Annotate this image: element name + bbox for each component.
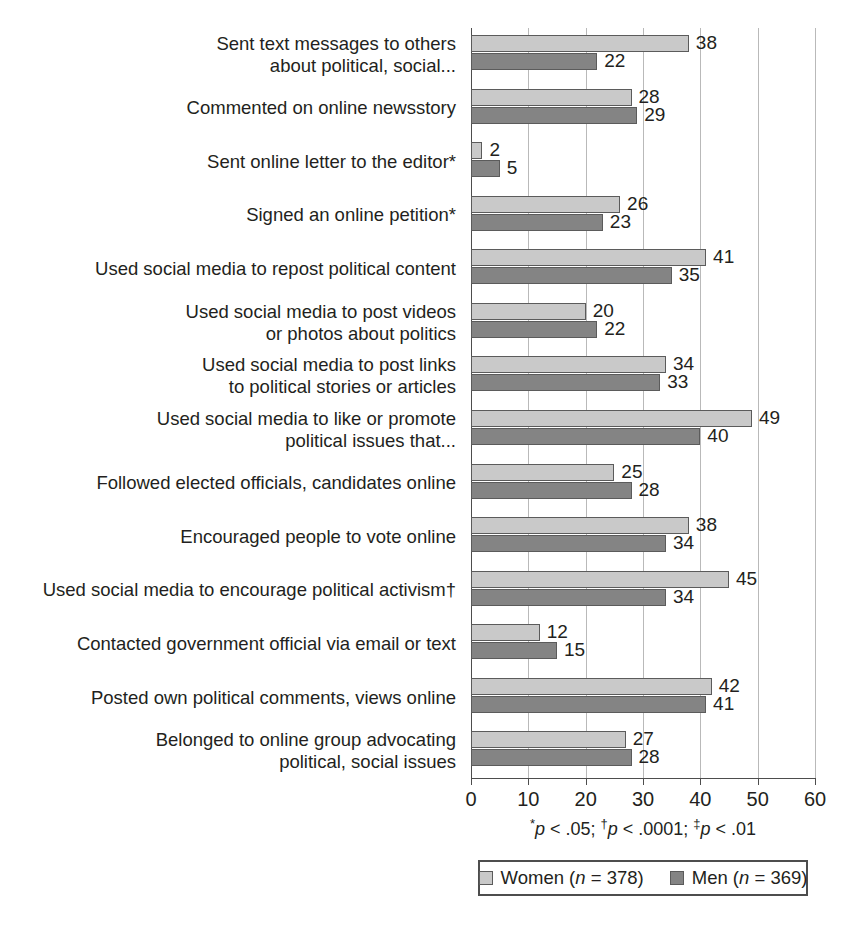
category-label-line: Followed elected officials, candidates o… bbox=[96, 472, 456, 494]
bar-men[interactable] bbox=[471, 214, 603, 231]
bar-men[interactable] bbox=[471, 642, 557, 659]
bar-wrapper-women: 25 bbox=[471, 464, 854, 481]
category-label: Used social media to encourage political… bbox=[0, 564, 462, 618]
bar-group: 1215 bbox=[471, 617, 854, 671]
x-tick-20 bbox=[586, 778, 587, 785]
bar-men[interactable] bbox=[471, 374, 660, 391]
bar-wrapper-men: 35 bbox=[471, 267, 854, 284]
bar-group: 2829 bbox=[471, 82, 854, 136]
x-tick-0 bbox=[471, 778, 472, 785]
bar-value-label: 38 bbox=[696, 33, 717, 53]
bar-wrapper-men: 15 bbox=[471, 642, 854, 659]
bar-women[interactable] bbox=[471, 89, 632, 106]
bar-value-label: 34 bbox=[673, 587, 694, 607]
category-label: Sent online letter to the editor* bbox=[0, 135, 462, 189]
category-label-line: about political, social... bbox=[270, 55, 456, 77]
bar-wrapper-men: 29 bbox=[471, 107, 854, 124]
legend-item-women[interactable]: Women (n = 378) bbox=[479, 867, 644, 889]
bar-women[interactable] bbox=[471, 464, 614, 481]
x-tick-label: 20 bbox=[575, 787, 597, 811]
bar-value-label: 28 bbox=[639, 480, 660, 500]
bar-group: 25 bbox=[471, 135, 854, 189]
x-tick-label: 50 bbox=[747, 787, 769, 811]
bar-women[interactable] bbox=[471, 624, 540, 641]
footnote-p-1: p bbox=[535, 819, 545, 839]
bar-wrapper-men: 28 bbox=[471, 482, 854, 499]
bar-men[interactable] bbox=[471, 53, 597, 70]
category-label: Followed elected officials, candidates o… bbox=[0, 457, 462, 511]
bar-men[interactable] bbox=[471, 589, 666, 606]
bar-men[interactable] bbox=[471, 107, 637, 124]
bar-men[interactable] bbox=[471, 267, 672, 284]
bar-wrapper-women: 20 bbox=[471, 303, 854, 320]
bar-value-label: 41 bbox=[713, 247, 734, 267]
footnote-p-2: p bbox=[608, 819, 618, 839]
bar-men[interactable] bbox=[471, 428, 700, 445]
category-label: Commented on online newsstory bbox=[0, 82, 462, 136]
bar-women[interactable] bbox=[471, 249, 706, 266]
bar-women[interactable] bbox=[471, 35, 689, 52]
bar-group: 4241 bbox=[471, 671, 854, 725]
category-label: Encouraged people to vote online bbox=[0, 510, 462, 564]
category-label-line: Used social media to post links bbox=[202, 354, 456, 376]
bar-women[interactable] bbox=[471, 678, 712, 695]
bar-wrapper-women: 34 bbox=[471, 356, 854, 373]
bar-women[interactable] bbox=[471, 196, 620, 213]
bar-group: 3822 bbox=[471, 28, 854, 82]
bar-women[interactable] bbox=[471, 303, 586, 320]
bar-women[interactable] bbox=[471, 356, 666, 373]
bar-women[interactable] bbox=[471, 517, 689, 534]
bar-wrapper-men: 41 bbox=[471, 696, 854, 713]
footnote-p-3: p bbox=[701, 819, 711, 839]
bar-wrapper-women: 38 bbox=[471, 35, 854, 52]
x-tick-label: 10 bbox=[517, 787, 539, 811]
bar-women[interactable] bbox=[471, 142, 482, 159]
category-label-line: Contacted government official via email … bbox=[77, 633, 456, 655]
bar-value-label: 15 bbox=[564, 640, 585, 660]
x-tick-label: 0 bbox=[465, 787, 476, 811]
category-label: Used social media to post linksto politi… bbox=[0, 349, 462, 403]
bar-wrapper-women: 38 bbox=[471, 517, 854, 534]
chart-legend: Women (n = 378) Men (n = 369) bbox=[478, 860, 808, 896]
bar-men[interactable] bbox=[471, 321, 597, 338]
bar-wrapper-women: 49 bbox=[471, 410, 854, 427]
bar-group: 4534 bbox=[471, 564, 854, 618]
bar-group: 2728 bbox=[471, 724, 854, 778]
bar-value-label: 22 bbox=[604, 51, 625, 71]
footnote-mark-2: † bbox=[601, 816, 608, 831]
grouped-bar-chart: Sent text messages to othersabout politi… bbox=[0, 0, 854, 932]
bar-value-label: 22 bbox=[604, 319, 625, 339]
bar-men[interactable] bbox=[471, 160, 500, 177]
category-label-line: Encouraged people to vote online bbox=[180, 526, 456, 548]
legend-item-men[interactable]: Men (n = 369) bbox=[670, 867, 808, 889]
bar-value-label: 49 bbox=[759, 408, 780, 428]
category-label-line: Commented on online newsstory bbox=[187, 97, 456, 119]
bar-wrapper-men: 22 bbox=[471, 53, 854, 70]
bar-value-label: 40 bbox=[707, 426, 728, 446]
category-label: Used social media to post videosor photo… bbox=[0, 296, 462, 350]
x-tick-60 bbox=[815, 778, 816, 785]
category-label-line: political issues that... bbox=[285, 430, 456, 452]
significance-footnote: *p < .05; †p < .0001; ‡p < .01 bbox=[471, 813, 815, 840]
category-label-line: Belonged to online group advocating bbox=[156, 729, 456, 751]
bar-group: 3433 bbox=[471, 349, 854, 403]
bar-group: 4135 bbox=[471, 242, 854, 296]
category-label-line: Used social media to like or promote bbox=[157, 408, 456, 430]
bar-women[interactable] bbox=[471, 731, 626, 748]
category-label-line: Posted own political comments, views onl… bbox=[91, 687, 456, 709]
bar-men[interactable] bbox=[471, 535, 666, 552]
bar-men[interactable] bbox=[471, 749, 632, 766]
bar-wrapper-women: 42 bbox=[471, 678, 854, 695]
footnote-value-1: < .05; bbox=[545, 819, 601, 839]
bar-men[interactable] bbox=[471, 696, 706, 713]
category-label: Signed an online petition* bbox=[0, 189, 462, 243]
bar-group: 4940 bbox=[471, 403, 854, 457]
category-label-line: Used social media to repost political co… bbox=[95, 258, 456, 280]
bar-wrapper-women: 28 bbox=[471, 89, 854, 106]
category-label: Posted own political comments, views onl… bbox=[0, 671, 462, 725]
bar-value-label: 34 bbox=[673, 533, 694, 553]
bar-wrapper-women: 45 bbox=[471, 571, 854, 588]
x-tick-label: 30 bbox=[632, 787, 654, 811]
bar-value-label: 5 bbox=[507, 158, 518, 178]
bar-men[interactable] bbox=[471, 482, 632, 499]
